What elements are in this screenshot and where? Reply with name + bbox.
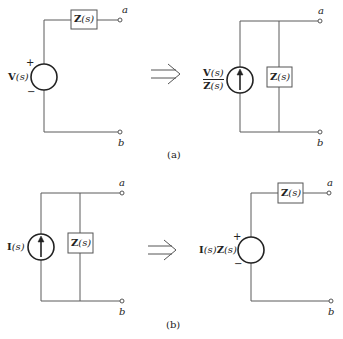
voltage-source-label: I(s)Z(s): [199, 245, 237, 255]
minus-sign: −: [27, 87, 35, 97]
impedance-label: Z(s): [270, 72, 290, 82]
terminal-a-b-right: [327, 191, 331, 195]
terminal-b-label: b: [317, 138, 323, 148]
terminal-b-a-left: [118, 130, 122, 134]
terminal-b-label: b: [119, 307, 125, 317]
caption-b: (b): [166, 320, 180, 330]
caption-a: (a): [167, 150, 181, 160]
terminal-a-a-right: [318, 19, 322, 23]
impedance-label: Z(s): [74, 14, 94, 24]
current-source-fraction-label: V(s) Z(s): [203, 68, 224, 91]
implies-arrow-icon: [148, 64, 180, 260]
circuit-wires: [0, 0, 343, 339]
impedance-label: Z(s): [281, 188, 301, 198]
terminal-b-label: b: [118, 138, 124, 148]
terminal-b-b-right: [329, 299, 333, 303]
terminal-a-b-left: [120, 191, 124, 195]
impedance-label: Z(s): [71, 238, 91, 248]
terminal-a-label: a: [122, 5, 128, 15]
terminal-a-label: a: [327, 178, 333, 188]
terminal-b-b-left: [120, 299, 124, 303]
plus-sign: +: [26, 58, 34, 68]
terminal-a-label: a: [318, 6, 324, 16]
terminal-b-label: b: [328, 307, 334, 317]
voltage-source-label: V(s): [8, 72, 29, 82]
source-transformation-figure: Z(s) V(s) + − a b (a) V(s) Z(s) Z(s) a b…: [0, 0, 343, 339]
current-source-label: I(s): [7, 242, 25, 252]
terminal-b-a-right: [318, 130, 322, 134]
terminal-a-label: a: [119, 178, 125, 188]
plus-sign: +: [233, 232, 241, 242]
minus-sign: −: [234, 259, 242, 269]
terminal-a-a-left: [118, 18, 122, 22]
